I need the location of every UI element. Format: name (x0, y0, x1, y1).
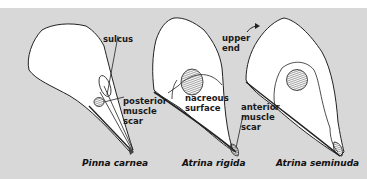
nacreous-surface-scar (181, 69, 203, 95)
posterior-muscle-scar-1 (94, 98, 104, 107)
label-upper-end: upper end (222, 33, 250, 53)
label-nacreous-surface: nacreous surface (185, 93, 229, 113)
label-sulcus: sulcus (103, 34, 133, 44)
muscle-scar-3 (287, 70, 308, 91)
label-anterior-muscle-scar: anterior muscle scar (241, 102, 280, 132)
shell-diagram (0, 0, 367, 179)
label-posterior-muscle-scar: posterior muscle scar (123, 96, 167, 126)
shell-atrina-seminuda (236, 18, 344, 156)
caption-pinna-carnea: Pinna carnea (82, 158, 148, 168)
caption-atrina-seminuda: Atrina seminuda (276, 158, 359, 168)
caption-atrina-rigida: Atrina rigida (182, 158, 245, 168)
